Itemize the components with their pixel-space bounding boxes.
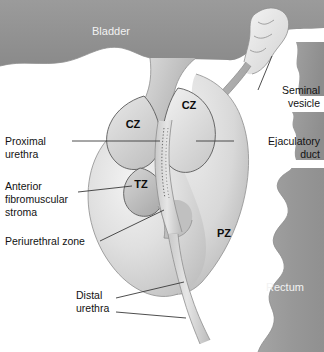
zone-label-tz: TZ	[134, 178, 148, 190]
label-distal-urethra-line2: urethra	[76, 302, 109, 314]
label-distal-urethra-line1: Distal	[76, 289, 102, 301]
label-proximal-urethra-line2: urethra	[5, 148, 38, 160]
anatomy-illustration: Bladder Rectum Seminal vesicle Ejaculato…	[0, 0, 324, 352]
label-rectum: Rectum	[266, 281, 304, 293]
label-anterior-stroma-line2: fibromuscular	[5, 193, 69, 205]
label-anterior-stroma-line3: stroma	[5, 206, 37, 218]
zone-label-cz-left: CZ	[126, 118, 141, 130]
label-periurethral-zone: Periurethral zone	[5, 235, 85, 247]
label-seminal-vesicle-line1: Seminal	[282, 84, 320, 96]
label-ejaculatory-duct-line2: duct	[300, 148, 320, 160]
label-ejaculatory-duct-line1: Ejaculatory	[268, 135, 321, 147]
prostate-zonal-anatomy-figure: Bladder Rectum Seminal vesicle Ejaculato…	[0, 0, 324, 352]
zone-label-pz: PZ	[217, 227, 231, 239]
label-seminal-vesicle-line2: vesicle	[288, 97, 320, 109]
label-anterior-stroma-line1: Anterior	[5, 180, 42, 192]
label-proximal-urethra-line1: Proximal	[5, 135, 46, 147]
label-bladder: Bladder	[92, 25, 130, 37]
zone-label-cz-right: CZ	[182, 99, 197, 111]
